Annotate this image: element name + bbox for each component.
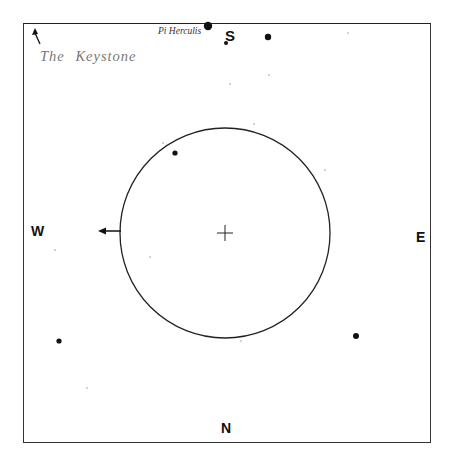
faint-star [162,142,164,144]
west-arrow-icon [98,228,121,235]
faint-star [347,32,349,34]
star [265,34,271,40]
keystone-arrow-icon [32,28,40,44]
direction-south: S [225,28,235,43]
asterism-title: The Keystone [40,48,137,65]
star [56,338,61,343]
star-chart [0,0,449,462]
faint-star [54,249,56,251]
star-label-pi-herculis: Pi Herculis [158,26,201,36]
direction-east: E [416,230,425,244]
faint-star [253,123,255,125]
faint-star [149,256,151,258]
star [172,150,177,155]
star [204,22,212,30]
star [353,333,359,339]
faint-star [324,169,326,171]
faint-star [86,387,88,389]
crosshair-icon [217,225,233,241]
direction-west: W [31,224,44,238]
faint-star [240,340,242,342]
faint-star [229,83,231,85]
direction-north: N [221,421,231,435]
faint-star [268,74,270,76]
star-markers [56,22,359,344]
